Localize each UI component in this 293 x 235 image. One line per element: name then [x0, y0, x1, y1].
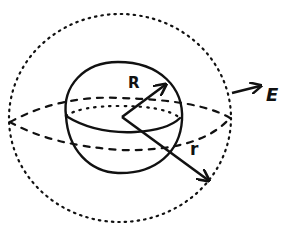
inner-radius-label: R	[128, 76, 140, 91]
outer-equator-back	[10, 98, 230, 122]
outer-radius-label: r	[190, 141, 198, 158]
field-E-arrow	[232, 86, 260, 93]
field-E-label: E	[266, 86, 278, 104]
diagram-canvas	[0, 0, 293, 235]
outer-sphere-outline	[9, 14, 231, 222]
